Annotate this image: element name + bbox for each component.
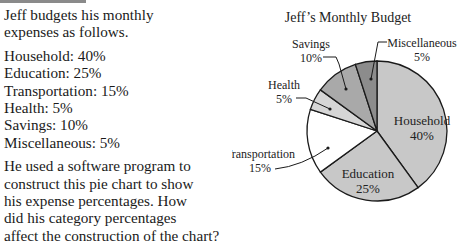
label-transportation-name: Transportation (232, 147, 295, 161)
expense-item-education: Education: 25% (4, 64, 236, 81)
question-line: construct this pie chart to show (4, 175, 236, 192)
label-education-pct: 25% (356, 181, 380, 196)
label-health-name: Health (268, 78, 300, 92)
intro-paragraph: Jeff budgets his monthly expenses as fol… (4, 6, 236, 41)
callout-dot (326, 146, 329, 149)
expense-list: Household: 40% Education: 25% Transporta… (4, 47, 236, 151)
label-health-pct: 5% (276, 92, 292, 106)
label-savings-pct: 10% (300, 51, 322, 65)
problem-text: Jeff budgets his monthly expenses as fol… (4, 6, 236, 241)
question-line: his expense percentages. How (4, 192, 236, 209)
pie-chart: Jeff’s Monthly Budget Household 40% Educ… (232, 0, 464, 241)
expense-item-health: Health: 5% (4, 99, 236, 116)
expense-item-savings: Savings: 10% (4, 116, 236, 133)
expense-item-transportation: Transportation: 15% (4, 82, 236, 99)
chart-title: Jeff’s Monthly Budget (285, 10, 412, 25)
label-education-name: Education (342, 166, 395, 181)
callout-dot (344, 87, 347, 90)
top-rule (0, 0, 86, 3)
question-line: did his category percentages (4, 209, 236, 226)
expense-item-miscellaneous: Miscellaneous: 5% (4, 134, 236, 151)
label-misc-name: Miscellaneous (387, 36, 457, 50)
label-savings-name: Savings (292, 37, 330, 51)
label-household-name: Household (394, 113, 451, 128)
callout-dot (328, 107, 331, 110)
label-misc-pct: 5% (414, 50, 430, 64)
intro-line: Jeff budgets his monthly (4, 6, 236, 23)
label-household-pct: 40% (410, 128, 434, 143)
question-line: He used a software program to (4, 157, 236, 174)
question-line: affect the construction of the chart? (4, 227, 236, 241)
question-paragraph: He used a software program to construct … (4, 157, 236, 241)
expense-item-household: Household: 40% (4, 47, 236, 64)
intro-line: expenses as follows. (4, 23, 236, 40)
label-transportation-pct: 15% (249, 161, 271, 175)
callout-dot (369, 77, 372, 80)
